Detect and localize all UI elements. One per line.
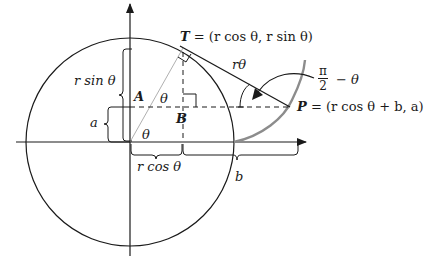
point-a-label: A — [134, 90, 144, 103]
angle-rest-label: − θ — [336, 73, 359, 86]
b-label: b — [235, 170, 243, 183]
brace-r-cos-theta — [131, 144, 182, 159]
brace-b — [183, 144, 298, 160]
theta-origin-label: θ — [142, 128, 150, 141]
angle-fraction: π 2 — [318, 65, 328, 92]
t-letter: T — [180, 29, 190, 44]
theta-a-label: θ — [160, 92, 168, 105]
right-angle-marker-b — [183, 94, 196, 107]
point-p-label: P = (r cos θ + b, a) — [297, 100, 424, 113]
p-coords: = (r cos θ + b, a) — [311, 99, 424, 114]
point-t-label: T = (r cos θ, r sin θ) — [180, 30, 313, 43]
involute-curve — [234, 60, 305, 142]
r-theta-label: rθ — [232, 58, 246, 71]
fraction-numerator: π — [318, 65, 328, 79]
point-b-label: B — [176, 112, 187, 125]
right-angle-marker-t — [178, 54, 191, 62]
arrowhead-icon — [252, 88, 263, 100]
t-coords: = (r cos θ, r sin θ) — [194, 29, 313, 44]
p-letter: P — [297, 99, 307, 114]
brace-a — [104, 107, 130, 142]
r-sin-theta-label: r sin θ — [74, 74, 116, 87]
r-cos-theta-label: r cos θ — [137, 160, 181, 173]
a-label: a — [90, 116, 98, 129]
angle-arc-p — [240, 84, 250, 107]
curved-arrow — [258, 74, 314, 92]
fraction-denominator: 2 — [318, 79, 328, 92]
